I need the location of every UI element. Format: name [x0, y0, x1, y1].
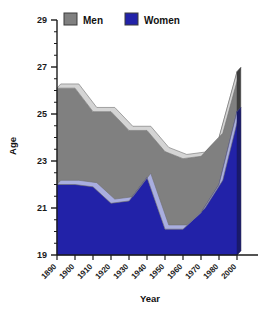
- y-tick-label: 25: [37, 109, 47, 119]
- series-women-side-face: [237, 107, 241, 255]
- legend-swatch-men: [64, 13, 77, 25]
- legend-item-men: Men: [64, 13, 103, 26]
- y-tick-label: 19: [37, 250, 47, 260]
- legend-label-women: Women: [144, 15, 180, 26]
- y-tick-label: 27: [37, 62, 47, 72]
- x-axis-title: Year: [140, 293, 160, 304]
- legend-swatch-women: [125, 13, 138, 25]
- legend-label-men: Men: [83, 15, 103, 26]
- chart-svg: Men Women 192123252729 18901900191019201…: [0, 0, 273, 316]
- legend-item-women: Women: [125, 13, 180, 26]
- y-tick-label: 29: [37, 15, 47, 25]
- y-axis-title: Age: [7, 137, 18, 155]
- y-tick-label: 23: [37, 156, 47, 166]
- y-tick-label: 21: [37, 203, 47, 213]
- age-at-first-marriage-chart: Men Women 192123252729 18901900191019201…: [0, 0, 273, 316]
